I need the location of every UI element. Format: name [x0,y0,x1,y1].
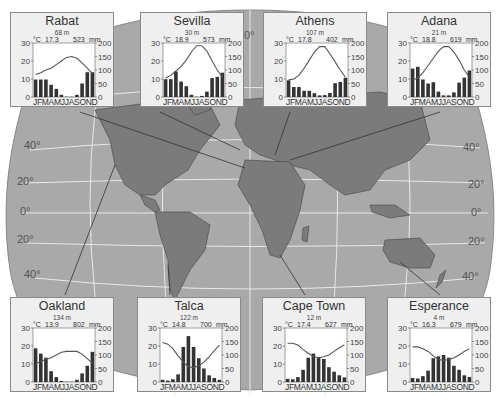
precip-bar [44,358,48,382]
precip-bar [49,85,53,97]
precip-tick-label: 0 [475,378,480,387]
climate-chart-sevilla: Sevilla30 m°C18.9573mm302010020015010050… [140,12,244,107]
precip-tick-label: 200 [98,324,112,333]
precip-bar [421,80,425,98]
precip-tick-label: 50 [351,80,360,89]
climate-chart-esperance: Esperance4 m°C16.3679mm30201002001501005… [387,297,491,392]
precip-bar [432,358,436,382]
precip-tick-label: 150 [475,53,489,62]
climate-chart-adana: Adana21 m°C18.8619mm3020100200150100500J… [387,12,491,107]
precip-bar [80,373,84,382]
precip-tick-label: 150 [351,53,365,62]
precip-tick-label: 0 [98,378,103,387]
temp-tick-label: 0 [153,378,158,387]
temp-tick-label: 10 [274,75,283,84]
lat-label-right-40s: 40° [462,270,479,282]
precip-tick-label: 0 [351,93,356,102]
lat-label-right-20n: 20° [468,178,485,190]
precip-bar [164,79,168,97]
lat-label-left-40s: 40° [24,268,41,280]
precip-bar [287,80,291,97]
precip-bar [91,72,95,97]
precip-bar [327,367,331,382]
temp-tick-label: 20 [148,342,157,351]
temp-tick-label: 20 [21,57,30,66]
climate-plot: 3020100200150100500 [138,298,242,393]
temp-tick-label: 10 [273,360,282,369]
month-labels: JFMAMJJASOND [33,382,95,392]
climate-chart-talca: Talca122 m°C14.8700mm3020100200150100500… [137,297,241,392]
precip-bar [317,358,321,382]
precip-bar [197,358,201,382]
precip-tick-label: 50 [225,365,234,374]
temp-tick-label: 30 [273,324,282,333]
precip-bar [202,369,206,383]
precip-tick-label: 100 [228,66,242,75]
month-labels: JFMAMJJASOND [410,382,472,392]
temp-tick-label: 30 [148,324,157,333]
precip-tick-label: 100 [351,66,365,75]
precip-tick-label: 200 [228,39,242,48]
precip-tick-label: 50 [350,365,359,374]
precip-bar [322,359,326,382]
temp-tick-label: 10 [398,360,407,369]
month-labels: JFMAMJJASOND [160,382,222,392]
precip-tick-label: 0 [225,378,230,387]
plot-area [285,328,347,382]
precip-bar [39,354,43,382]
precip-bar [174,71,178,97]
precip-bar [169,79,173,97]
precip-bar [344,78,348,97]
precip-tick-label: 50 [98,80,107,89]
temp-tick-label: 30 [274,39,283,48]
temp-tick-label: 30 [21,39,30,48]
precip-bar [463,78,467,97]
precip-tick-label: 0 [98,93,103,102]
precip-tick-label: 50 [228,80,237,89]
precip-tick-label: 200 [475,39,489,48]
precip-tick-label: 200 [475,324,489,333]
precip-bar [452,366,456,382]
temp-tick-label: 20 [398,57,407,66]
precip-tick-label: 200 [98,39,112,48]
precip-bar [176,374,180,382]
precip-bar [55,89,59,97]
precip-tick-label: 200 [225,324,239,333]
lat-label-left-20n: 20° [17,175,34,187]
temp-tick-label: 30 [21,324,30,333]
temp-tick-label: 0 [279,93,284,102]
precip-bar [91,352,95,382]
precip-tick-label: 50 [475,80,484,89]
precip-tick-label: 100 [350,351,364,360]
temp-tick-label: 30 [398,39,407,48]
precip-bar [339,82,343,97]
precip-tick-label: 0 [228,93,233,102]
precip-bar [80,84,84,98]
precip-tick-label: 150 [98,53,112,62]
month-labels: JFMAMJJASOND [285,382,347,392]
temp-tick-label: 0 [156,93,161,102]
precip-tick-label: 150 [475,338,489,347]
month-labels: JFMAMJJASOND [410,97,472,107]
precip-bar [307,358,311,382]
precip-tick-label: 50 [98,365,107,374]
precip-bar [179,82,183,97]
precip-bar [210,78,214,97]
climate-plot: 3020100200150100500 [388,298,492,393]
precip-bar [411,69,415,97]
precip-tick-label: 0 [350,378,355,387]
precip-bar [185,86,189,97]
precip-bar [192,347,196,382]
lat-label-left-0: 0° [20,205,31,217]
temp-tick-label: 0 [403,93,408,102]
precip-bar [457,370,461,382]
precip-bar [442,355,446,382]
precip-tick-label: 150 [350,338,364,347]
lat-label-left-40n: 40° [24,139,41,151]
precip-tick-label: 150 [98,338,112,347]
temp-tick-label: 0 [26,378,31,387]
precip-tick-label: 100 [98,66,112,75]
plot-area [410,328,472,382]
precip-tick-label: 150 [225,338,239,347]
climate-plot: 3020100200150100500 [11,298,115,393]
